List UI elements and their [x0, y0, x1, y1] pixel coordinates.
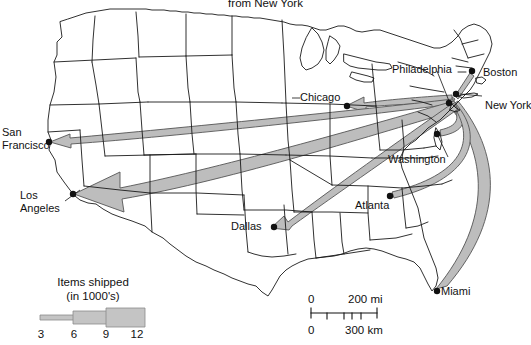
city-label-san-francisco-line2: Francisco — [2, 139, 50, 152]
city-label-san-francisco-line1: San — [2, 126, 50, 139]
flow-map-figure: from New York — [0, 0, 531, 345]
scale-bottom-value: 300 km — [345, 324, 383, 336]
scale-top-value: 200 mi — [348, 293, 383, 305]
city-label-los-angeles-line2: Angeles — [20, 202, 60, 215]
legend-title-line2: (in 1000's) — [30, 290, 156, 302]
city-dot-dallas — [271, 224, 277, 230]
legend-tick-12: 12 — [127, 328, 147, 340]
legend-tick-6: 6 — [66, 328, 82, 340]
city-label-san-francisco: San Francisco — [2, 126, 50, 152]
city-label-los-angeles-line1: Los — [20, 189, 60, 202]
scale-bar — [311, 308, 377, 319]
city-dot-boston — [469, 68, 475, 74]
scale-bottom-zero: 0 — [308, 324, 314, 336]
city-label-los-angeles: Los Angeles — [20, 189, 60, 215]
scale-top-zero: 0 — [308, 293, 314, 305]
city-label-washington: Washington — [388, 153, 446, 166]
legend-title-line1: Items shipped — [30, 276, 156, 288]
city-label-new-york: New York — [485, 99, 531, 112]
legend-wedge — [40, 308, 145, 327]
city-label-atlanta: Atlanta — [355, 199, 389, 212]
city-dot-miami — [434, 288, 440, 294]
city-label-chicago: Chicago — [300, 91, 340, 104]
city-dot-chicago — [344, 103, 350, 109]
city-dot-washington — [434, 131, 440, 137]
city-label-miami: Miami — [441, 285, 470, 298]
city-dot-new-york — [453, 91, 459, 97]
legend-tick-3: 3 — [33, 328, 49, 340]
legend-tick-9: 9 — [98, 328, 114, 340]
city-label-dallas: Dallas — [231, 220, 262, 233]
city-dot-los-angeles — [70, 191, 76, 197]
city-label-boston: Boston — [483, 66, 517, 79]
city-label-philadelphia: Philadelphia — [392, 63, 452, 76]
